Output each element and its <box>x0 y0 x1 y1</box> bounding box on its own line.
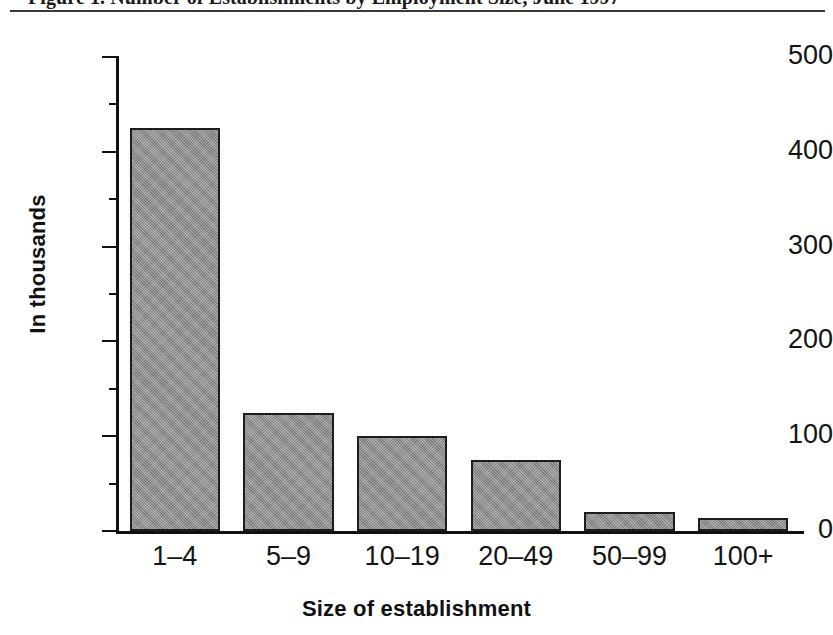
y-axis-tick-major <box>102 151 119 153</box>
y-axis-tick-major <box>102 246 119 248</box>
bar <box>243 413 333 532</box>
title-divider <box>10 10 825 12</box>
bar <box>471 460 561 531</box>
y-axis-tick-major <box>102 56 119 58</box>
x-axis-line <box>116 531 804 534</box>
x-axis-tick-label: 100+ <box>686 541 800 572</box>
x-axis-tick-label: 10–19 <box>345 541 459 572</box>
page-title: Figure 1. Number of Establishments by Em… <box>28 0 620 9</box>
x-axis-tick-label: 1–4 <box>118 541 232 572</box>
bar <box>698 518 788 531</box>
x-axis-title: Size of establishment <box>0 596 833 622</box>
x-axis-tick-label: 5–9 <box>232 541 346 572</box>
x-axis-tick-label: 50–99 <box>573 541 687 572</box>
bar-chart: In thousands 0100200300400500 1–45–910–1… <box>0 13 833 635</box>
plot-area <box>118 57 800 531</box>
bar <box>130 128 220 531</box>
y-axis-tick-major <box>102 435 119 437</box>
bar <box>357 436 447 531</box>
bar <box>584 512 674 531</box>
y-axis-tick-major <box>102 530 119 532</box>
x-axis-tick-label: 20–49 <box>459 541 573 572</box>
y-axis-title: In thousands <box>25 164 51 364</box>
y-axis-tick-major <box>102 340 119 342</box>
